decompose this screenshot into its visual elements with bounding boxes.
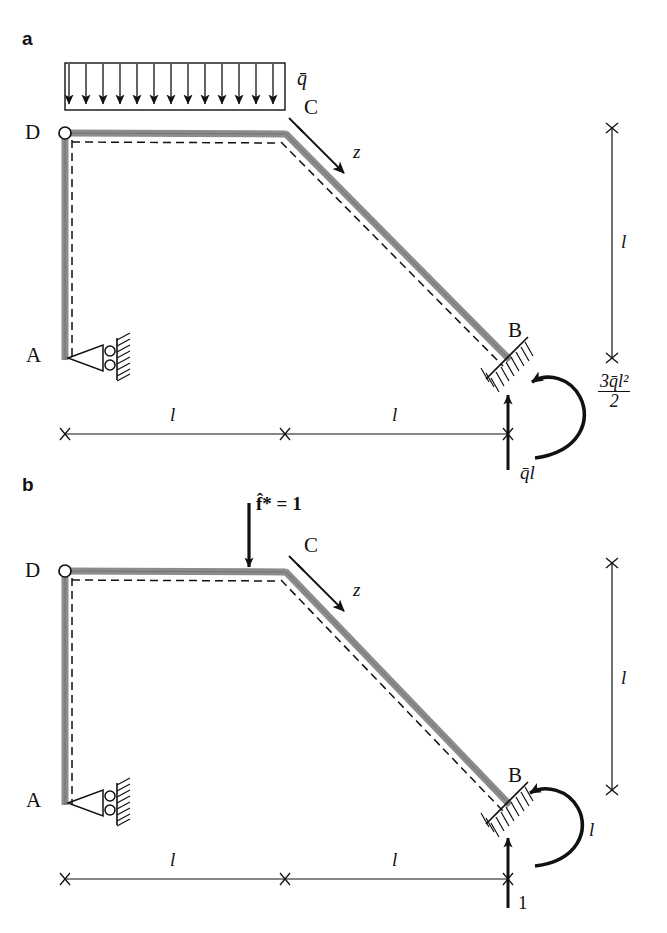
roller-support-b: [68, 778, 130, 826]
dimension-label-b-left: l: [170, 850, 175, 869]
hinge-node-d-b: [59, 565, 71, 577]
node-label-d-b: D: [25, 560, 40, 581]
node-label-c-b: C: [304, 535, 318, 556]
moment-label-b: l: [589, 820, 594, 839]
dimension-label-b-right: l: [392, 850, 397, 869]
unit-force-label-b: f̂* = 1: [256, 494, 302, 513]
node-label-b-b: B: [508, 765, 522, 786]
node-label-a-b: A: [26, 790, 41, 811]
frame-members-b: [64, 571, 510, 805]
dimension-vertical-b: [606, 558, 618, 795]
fixed-support-b-b: [481, 782, 533, 837]
dimension-horizontal-b: [60, 873, 513, 885]
dimension-label-b-vertical: l: [621, 668, 626, 687]
moment-arc-b: [530, 789, 582, 866]
panel-b-graphics: [0, 0, 667, 933]
reaction-force-label-b: 1: [518, 893, 528, 912]
reference-axis-b: [72, 578, 503, 811]
z-axis-label-b: z: [353, 580, 360, 599]
